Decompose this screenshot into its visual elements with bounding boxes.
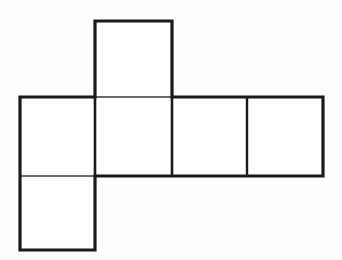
- net-face-row-1: [20, 97, 95, 176]
- net-face-row-4: [247, 97, 323, 176]
- cube-net-svg: [0, 0, 342, 260]
- net-face-top: [95, 21, 172, 97]
- net-face-row-2: [95, 97, 172, 176]
- net-face-row-3: [172, 97, 247, 176]
- net-face-bottom: [20, 176, 95, 250]
- cube-net-figure: Cube Net Unfolded cube net composed of s…: [0, 0, 342, 260]
